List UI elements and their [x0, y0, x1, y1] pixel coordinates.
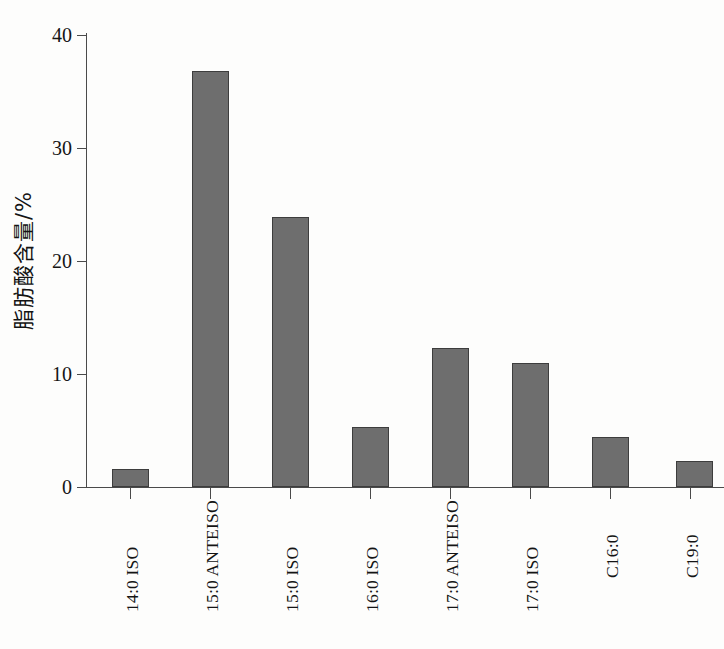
- y-tick-mark-10: [77, 374, 86, 375]
- bar-14-0-iso: [112, 469, 149, 487]
- x-axis-line: [86, 487, 724, 488]
- bar-17-0-iso: [512, 363, 549, 487]
- bar-c19-0: [676, 461, 713, 487]
- y-tick-mark-20: [77, 261, 86, 262]
- x-axis-label-15-0-iso: 15:0 ISO: [284, 547, 302, 612]
- x-axis-label-15-0-anteiso: 15:0 ANTEISO: [204, 500, 222, 612]
- y-tick-mark-30: [77, 148, 86, 149]
- x-axis-label-c19-0: C19:0: [684, 534, 702, 578]
- bar-chart: 脂肪酸含量/% 0 10 20 30 40 14:0 ISO 15:0 ANTE…: [0, 0, 724, 649]
- y-tick-mark-40: [77, 35, 86, 36]
- x-axis-label-16-0-iso: 16:0 ISO: [364, 547, 382, 612]
- x-tick-mark-2: [290, 488, 291, 499]
- x-tick-mark-6: [610, 488, 611, 499]
- y-tick-label-20: 20: [0, 251, 72, 271]
- x-axis-label-c16-0: C16:0: [604, 534, 622, 578]
- y-tick-label-40: 40: [0, 25, 72, 45]
- x-tick-mark-4: [450, 488, 451, 499]
- bar-16-0-iso: [352, 427, 389, 487]
- bar-15-0-anteiso: [192, 71, 229, 487]
- y-tick-label-30: 30: [0, 138, 72, 158]
- y-tick-mark-0: [77, 487, 86, 488]
- x-axis-label-14-0-iso: 14:0 ISO: [124, 547, 142, 612]
- x-axis-label-17-0-anteiso: 17:0 ANTEISO: [444, 500, 462, 612]
- x-tick-mark-0: [130, 488, 131, 499]
- x-tick-mark-7: [690, 488, 691, 499]
- x-tick-mark-3: [370, 488, 371, 499]
- bar-c16-0: [592, 437, 629, 487]
- y-tick-label-10: 10: [0, 364, 72, 384]
- x-tick-mark-1: [210, 488, 211, 499]
- x-tick-mark-5: [530, 488, 531, 499]
- y-tick-label-0: 0: [0, 477, 72, 497]
- bar-15-0-iso: [272, 217, 309, 487]
- y-axis-line: [86, 33, 87, 488]
- x-axis-label-17-0-iso: 17:0 ISO: [524, 547, 542, 612]
- bar-17-0-anteiso: [432, 348, 469, 487]
